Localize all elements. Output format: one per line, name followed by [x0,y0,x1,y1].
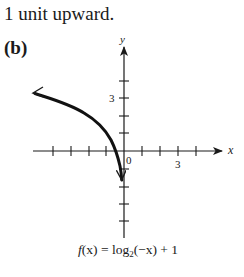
caption-paren-x: (x) [82,242,98,257]
origin-label: 0 [126,154,132,166]
function-curve [35,94,122,181]
x-axis-label: x [227,143,234,157]
caption-argument: (−x) + 1 [134,242,178,257]
y-axis-label: y [119,33,125,45]
caption-equals-log: = log [98,242,130,257]
function-caption: f(x) = log2(−x) + 1 [78,242,178,258]
y-tick-label-3: 3 [109,92,115,104]
function-graph: y x 0 3 3 [0,0,244,277]
x-tick-label-3: 3 [175,158,181,170]
